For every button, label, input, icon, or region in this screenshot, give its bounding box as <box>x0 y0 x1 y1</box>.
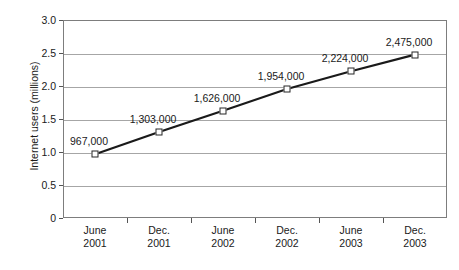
y-axis-tick-label: 1.0 <box>32 146 56 158</box>
data-point-marker <box>92 151 99 158</box>
x-axis-tick-label-line: 2001 <box>127 237 191 250</box>
data-point-label: 2,475,000 <box>386 36 433 48</box>
x-axis-tick-label: Dec.2001 <box>127 224 191 250</box>
data-point-label: 2,224,000 <box>322 52 369 64</box>
plot-area <box>63 20 447 218</box>
x-axis-tick-label-line: 2003 <box>383 237 447 250</box>
x-axis-tick-mark <box>319 218 320 223</box>
gridline <box>64 54 446 55</box>
x-axis-tick-label-line: Dec. <box>255 224 319 237</box>
gridline <box>64 87 446 88</box>
x-axis-tick-mark <box>127 218 128 223</box>
x-axis-tick-mark <box>191 218 192 223</box>
x-axis-tick-mark <box>255 218 256 223</box>
data-point-label: 1,954,000 <box>258 70 305 82</box>
gridline <box>64 186 446 187</box>
x-axis-tick-label: Dec.2002 <box>255 224 319 250</box>
x-axis-tick-label-line: June <box>63 224 127 237</box>
x-axis-tick-mark <box>383 218 384 223</box>
data-point-marker <box>220 107 227 114</box>
x-axis-tick-label-line: 2003 <box>319 237 383 250</box>
x-axis-tick-label-line: June <box>191 224 255 237</box>
x-axis-tick-label-line: June <box>319 224 383 237</box>
x-axis-tick-label-line: Dec. <box>383 224 447 237</box>
gridline <box>64 120 446 121</box>
x-axis-tick-label: Dec.2003 <box>383 224 447 250</box>
data-point-label: 1,626,000 <box>194 92 241 104</box>
x-axis-tick-label: June2003 <box>319 224 383 250</box>
x-axis-tick-label: June2002 <box>191 224 255 250</box>
line-chart: Internet users (millions) 00.51.01.52.02… <box>0 0 459 270</box>
x-axis-tick-label: June2001 <box>63 224 127 250</box>
y-axis-tick-label: 2.5 <box>32 47 56 59</box>
y-axis-tick-labels: 00.51.01.52.02.53.0 <box>30 0 56 270</box>
gridline <box>64 153 446 154</box>
data-point-label: 1,303,000 <box>130 113 177 125</box>
data-point-label: 967,000 <box>70 135 108 147</box>
data-point-marker <box>284 86 291 93</box>
x-axis-tick-label-line: 2001 <box>63 237 127 250</box>
data-point-marker <box>412 51 419 58</box>
x-axis-tick-labels: June2001Dec.2001June2002Dec.2002June2003… <box>63 224 447 264</box>
y-axis-tick-label: 3.0 <box>32 14 56 26</box>
x-axis-tick-label-line: Dec. <box>127 224 191 237</box>
y-axis-tick-label: 1.5 <box>32 113 56 125</box>
data-point-marker <box>156 129 163 136</box>
y-axis-tick-label: 0.5 <box>32 179 56 191</box>
y-axis-tick-label: 0 <box>32 212 56 224</box>
x-axis-tick-label-line: 2002 <box>255 237 319 250</box>
data-point-marker <box>348 68 355 75</box>
y-axis-tick-label: 2.0 <box>32 80 56 92</box>
x-axis-tick-label-line: 2002 <box>191 237 255 250</box>
